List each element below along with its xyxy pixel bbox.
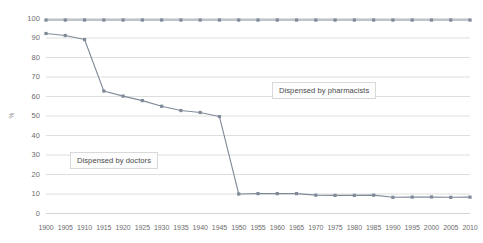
data-point-marker xyxy=(411,196,414,199)
data-point-marker xyxy=(411,18,414,21)
y-tick-label: 80 xyxy=(14,54,40,62)
gridlines xyxy=(46,19,470,214)
data-point-marker xyxy=(256,192,259,195)
data-point-marker xyxy=(430,18,433,21)
y-tick-label: 70 xyxy=(14,73,40,81)
data-point-marker xyxy=(218,115,221,118)
data-point-marker xyxy=(295,192,298,195)
data-point-marker xyxy=(449,18,452,21)
data-point-marker xyxy=(160,18,163,21)
data-point-marker xyxy=(83,18,86,21)
data-point-marker xyxy=(102,18,105,21)
data-point-marker xyxy=(295,18,298,21)
data-point-marker xyxy=(121,95,124,98)
data-point-marker xyxy=(218,18,221,21)
y-tick-label: 0 xyxy=(14,210,40,218)
data-point-marker xyxy=(44,32,47,35)
y-tick-label: 90 xyxy=(14,34,40,42)
data-point-marker xyxy=(391,18,394,21)
data-point-marker xyxy=(179,18,182,21)
data-point-marker xyxy=(468,196,471,199)
series-layer xyxy=(44,18,471,198)
data-point-marker xyxy=(430,195,433,198)
data-point-marker xyxy=(160,105,163,108)
data-point-marker xyxy=(372,18,375,21)
data-point-marker xyxy=(102,89,105,92)
data-point-marker xyxy=(276,18,279,21)
data-point-marker xyxy=(237,192,240,195)
series-pharmacists xyxy=(44,18,471,21)
y-axis-title: % xyxy=(8,109,15,123)
data-point-marker xyxy=(449,196,452,199)
y-tick-label: 100 xyxy=(14,15,40,23)
y-tick-label: 20 xyxy=(14,171,40,179)
data-point-marker xyxy=(391,196,394,199)
data-point-marker xyxy=(237,18,240,21)
data-point-marker xyxy=(44,18,47,21)
data-point-marker xyxy=(179,109,182,112)
data-point-marker xyxy=(314,18,317,21)
data-point-marker xyxy=(199,111,202,114)
data-point-marker xyxy=(353,18,356,21)
data-point-marker xyxy=(141,99,144,102)
y-tick-label: 30 xyxy=(14,151,40,159)
data-point-marker xyxy=(333,18,336,21)
data-point-marker xyxy=(276,192,279,195)
y-tick-label: 10 xyxy=(14,190,40,198)
series-label-doctors: Dispensed by doctors xyxy=(70,152,158,169)
data-point-marker xyxy=(64,34,67,37)
y-tick-label: 60 xyxy=(14,93,40,101)
data-point-marker xyxy=(372,194,375,197)
series-doctors xyxy=(44,32,471,199)
y-tick-label: 50 xyxy=(14,112,40,120)
x-tick-label: 2010 xyxy=(455,224,483,232)
data-point-marker xyxy=(141,18,144,21)
y-tick-label: 40 xyxy=(14,132,40,140)
data-point-marker xyxy=(64,18,67,21)
data-point-marker xyxy=(314,194,317,197)
series-label-pharmacists: Dispensed by pharmacists xyxy=(272,82,376,99)
data-point-marker xyxy=(468,18,471,21)
data-point-marker xyxy=(256,18,259,21)
data-point-marker xyxy=(121,18,124,21)
data-point-marker xyxy=(199,18,202,21)
data-point-marker xyxy=(353,194,356,197)
data-point-marker xyxy=(83,38,86,41)
series-line xyxy=(46,34,470,198)
data-point-marker xyxy=(333,194,336,197)
